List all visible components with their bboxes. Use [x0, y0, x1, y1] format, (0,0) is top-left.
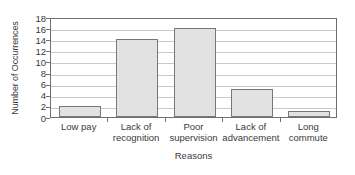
y-tick-label: 4 [22, 91, 46, 100]
bar [231, 89, 273, 117]
x-tick-label-line: supervision [165, 132, 222, 143]
x-tick-label: Lack ofrecognition [107, 121, 164, 143]
bar [59, 106, 101, 117]
x-tick-label-line: Lack of [107, 121, 164, 132]
x-axis-title: Reasons [50, 150, 337, 161]
x-axis-tick-labels: Low payLack ofrecognitionPoorsupervision… [50, 121, 337, 149]
y-tick-label: 10 [22, 58, 46, 67]
x-tick-label: Longcommute [280, 121, 337, 143]
y-tick-label: 16 [22, 25, 46, 34]
x-tick-mark [107, 118, 108, 122]
y-tick-label: 14 [22, 36, 46, 45]
x-tick-label: Lack ofadvancement [222, 121, 279, 143]
x-tick-mark [165, 118, 166, 122]
x-tick-mark [222, 118, 223, 122]
x-tick-label-line: Lack of [222, 121, 279, 132]
bar [116, 39, 158, 117]
bar [174, 28, 216, 117]
y-tick-label: 6 [22, 80, 46, 89]
y-axis-title: Number of Occurrences [8, 8, 22, 128]
y-axis-tick-labels: 024681012141618 [22, 14, 46, 118]
x-tick-label-line: Low pay [50, 121, 107, 132]
bar [288, 111, 330, 117]
x-tick-mark [280, 118, 281, 122]
x-tick-label: Low pay [50, 121, 107, 132]
x-tick-label: Poorsupervision [165, 121, 222, 143]
y-tick-label: 2 [22, 102, 46, 111]
y-tick-label: 8 [22, 69, 46, 78]
bar-series [51, 19, 336, 117]
x-tick-label-line: Long [280, 121, 337, 132]
x-tick-label-line: commute [280, 132, 337, 143]
bar-chart: Number of Occurrences 024681012141618 Lo… [0, 0, 355, 175]
x-tick-label-line: recognition [107, 132, 164, 143]
x-tick-label-line: advancement [222, 132, 279, 143]
y-tick-label: 0 [22, 114, 46, 123]
y-tick-label: 12 [22, 47, 46, 56]
plot-area [50, 18, 337, 118]
x-tick-label-line: Poor [165, 121, 222, 132]
y-tick-label: 18 [22, 14, 46, 23]
y-tick-mark [46, 118, 50, 119]
